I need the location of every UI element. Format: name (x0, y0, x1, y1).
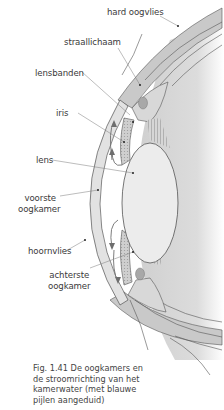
label-hoornvlies: hoornvlies (28, 246, 71, 257)
label-voorste-oogkamer: voorste oogkamer (18, 193, 56, 215)
label-iris: iris (56, 108, 68, 119)
label-hard-oogvlies: hard oogvlies (107, 7, 164, 18)
label-lens: lens (36, 155, 53, 166)
label-lensbanden: lensbanden (35, 68, 84, 79)
figure-caption: Fig. 1.41 De oogkamers en de stroomricht… (33, 363, 153, 405)
label-straallichaam: straallichaam (64, 37, 121, 48)
lens (122, 143, 178, 263)
ciliary-process-bottom (136, 268, 145, 280)
ciliary-process-top (139, 97, 148, 109)
eye-chambers-diagram: hard oogvlies straallichaam lensbanden i… (0, 0, 224, 410)
label-achterste-oogkamer: achterste oogkamer (48, 270, 90, 292)
